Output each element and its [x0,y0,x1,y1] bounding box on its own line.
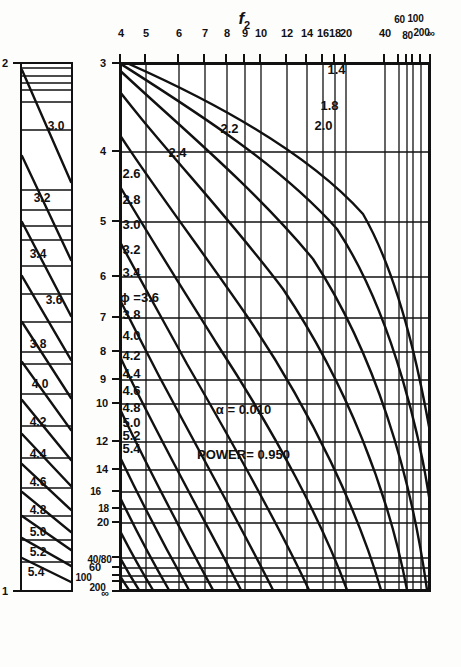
phi-label-4-8: 4.8 [122,400,140,415]
f2-tick-18 [333,54,335,62]
phi-label-3-0: 3.0 [122,217,140,232]
f1-tick-10 [112,402,119,404]
f1-label-14: 14 [91,463,113,475]
figure-rotation-wrapper: 1.4 1.8 2.0 2.2 2.4 2.6 2.8 3.0 3.2 3.4 … [0,0,461,667]
phi-label-1-8: 1.8 [320,98,338,113]
f1-tick-200 [112,580,119,582]
f1-tick-100 [112,574,119,576]
phi-label-2-0: 2.0 [314,118,332,133]
f2-label-inf: ∞ [420,27,442,39]
f1-label-5: 5 [92,215,114,227]
phi-curve-2-0 [121,64,407,590]
main-plot-svg [121,64,429,590]
phi-curve-2-2 [121,64,381,590]
aux-phi-label-3-2: 3.2 [34,191,51,205]
f2-tick-40 [383,54,385,62]
aux-phi-label-3-8: 3.8 [30,337,47,351]
f1-label-20: 20 [92,516,114,528]
f2-tick-10 [259,54,261,62]
f1-label-inf: ∞ [94,587,116,599]
phi-label-4-2: 4.2 [122,348,140,363]
f2-tick-14 [305,54,307,62]
f2-label-5: 5 [135,27,157,39]
f1-label-8: 8 [92,345,114,357]
f2-tick-8 [225,54,227,62]
phi-curve-2-6 [121,64,309,590]
chart-page: 1.4 1.8 2.0 2.2 2.4 2.6 2.8 3.0 3.2 3.4 … [0,0,461,667]
f1-label-7: 7 [92,311,114,323]
phi-curve-2-4 [121,64,347,590]
aux-phi-label-3-4: 3.4 [30,247,47,261]
f2-tick-5 [144,54,146,62]
f2-tick-200 [419,54,421,62]
f2-tick-6 [177,54,179,62]
aux-label-1: 1 [0,585,16,597]
f2-tick-80 [405,54,407,62]
aux-phi-label-4-4: 4.4 [30,447,47,461]
aux-phi-label-4-6: 4.6 [30,475,47,489]
aux-phi-label-4-0: 4.0 [32,377,49,391]
phi-label-2-8: 2.8 [122,192,140,207]
f2-label-10: 10 [248,27,274,39]
aux-phi-label-3-0: 3.0 [48,119,65,133]
f2-label-6: 6 [168,27,190,39]
f2-tick-9 [243,54,245,62]
aux-phi-curve-3-2 [22,156,71,260]
f1-tick-12 [112,440,119,442]
phi-label-1-4: 1.4 [327,62,345,77]
aux-phi-label-5-2: 5.2 [30,545,47,559]
f2-label-20: 20 [333,27,359,39]
f2-tick-4 [119,54,121,62]
f2-tick-12 [285,54,287,62]
f1-tick-16 [112,490,119,492]
f2-axis-title-sub: 2 [244,19,250,31]
f2-axis-title: f2 [238,9,250,30]
alpha-annotation: α = 0.010 [216,402,271,417]
phi-label-4-4: 4.4 [122,366,140,381]
f1-label-18: 18 [93,503,115,514]
f2-label-100: 100 [400,13,432,24]
f2-tick-60 [397,54,399,62]
aux-phi-label-4-8: 4.8 [30,503,47,517]
aux-phi-label-3-6: 3.6 [46,293,63,307]
main-plot-panel: 1.4 1.8 2.0 2.2 2.4 2.6 2.8 3.0 3.2 3.4 … [119,62,431,592]
f1-tick-14 [112,468,119,470]
phi-label-3-6: ϕ =3.6 [120,290,159,305]
f2-tick-20 [344,54,346,62]
phi-label-3-2: 3.2 [122,242,140,257]
f2-tick-7 [203,54,205,62]
power-function-chart: 1.4 1.8 2.0 2.2 2.4 2.6 2.8 3.0 3.2 3.4 … [0,0,461,667]
f2-tick-100 [411,54,413,62]
aux-label-2: 2 [0,57,16,69]
aux-phi-label-5-0: 5.0 [30,525,47,539]
phi-curve-2-8 [121,64,273,590]
phi-label-3-4: 3.4 [122,265,140,280]
main-phi-curves [121,64,429,590]
phi-label-4-0: 4.0 [122,328,140,343]
phi-label-2-2: 2.2 [220,121,238,136]
aux-plot-panel: 3.0 3.2 3.4 3.6 3.8 4.0 4.2 4.4 4.6 4.8 … [20,62,73,592]
f1-label-9: 9 [92,373,114,385]
f1-label-12: 12 [91,435,113,447]
phi-label-5-4: 5.4 [122,441,140,456]
f1-label-16: 16 [85,486,107,497]
phi-label-4-6: 4.6 [122,383,140,398]
aux-phi-label-5-4: 5.4 [28,565,45,579]
f1-label-3: 3 [92,57,114,69]
f2-label-7: 7 [194,27,216,39]
f2-label-4: 4 [110,27,132,39]
aux-phi-label-4-2: 4.2 [30,415,47,429]
f1-label-4: 4 [92,145,114,157]
f1-label-10: 10 [91,397,113,409]
phi-label-3-8: 3.8 [122,307,140,322]
f2-tick-16 [321,54,323,62]
f1-tick-60 [112,566,119,568]
power-annotation: POWER= 0.950 [197,447,290,462]
phi-label-2-4: 2.4 [168,145,186,160]
f1-label-6: 6 [92,270,114,282]
f2-tick-inf [429,54,431,62]
phi-label-2-6: 2.6 [122,166,140,181]
